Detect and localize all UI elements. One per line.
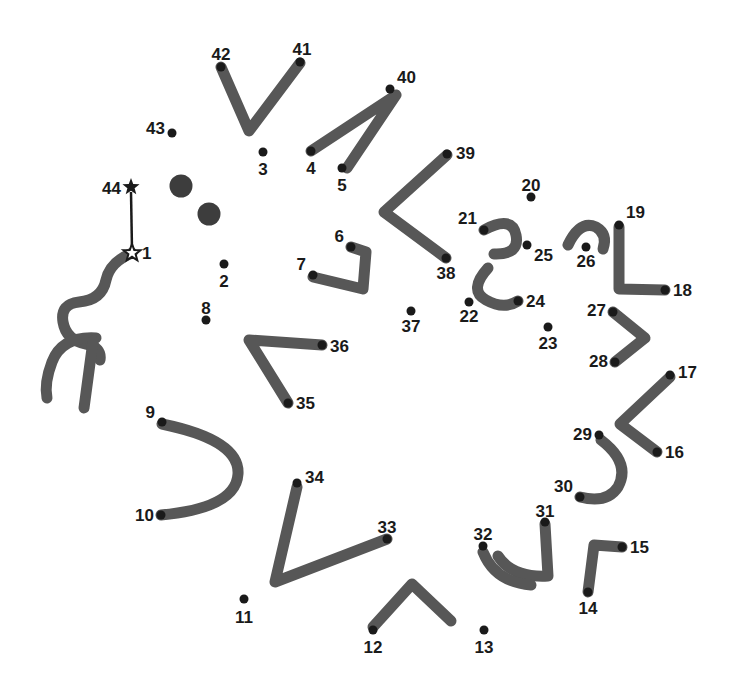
- dot-number-label-16: 16: [665, 443, 684, 462]
- stroke-31-14: [498, 524, 548, 576]
- dot-icon-15: [618, 543, 627, 552]
- dot-marker-24[interactable]: 24: [514, 292, 546, 311]
- dot-number-label-22: 22: [460, 307, 479, 326]
- stroke-42-41: [221, 63, 300, 131]
- dot-icon-26: [582, 243, 591, 252]
- dot-number-label-33: 33: [378, 518, 397, 537]
- dot-marker-18[interactable]: 18: [661, 281, 692, 300]
- dot-marker-10[interactable]: 10: [135, 506, 165, 525]
- stroke-9-10: [161, 424, 238, 515]
- dot-number-label-42: 42: [212, 45, 231, 64]
- dot-icon-24: [514, 297, 523, 306]
- start-end-guide: [131, 192, 132, 250]
- dot-marker-26[interactable]: 26: [577, 243, 596, 272]
- stroke-6-7: [313, 247, 366, 289]
- dot-icon-14: [584, 588, 593, 597]
- dot-number-label-25: 25: [534, 246, 553, 265]
- dot-marker-44[interactable]: 44: [102, 178, 139, 198]
- dot-icon-19: [615, 221, 624, 230]
- dot-icon-22: [465, 298, 474, 307]
- dot-number-label-44: 44: [102, 179, 121, 198]
- stroke-left-fork-b: [84, 341, 93, 408]
- dot-marker-42[interactable]: 42: [212, 45, 231, 72]
- dot-marker-40[interactable]: 40: [386, 68, 416, 94]
- dot-number-label-11: 11: [235, 608, 253, 627]
- stroke-19-18: [619, 227, 665, 290]
- connect-the-dots-canvas: 1234567891011121314151617181920212223242…: [0, 0, 731, 690]
- dot-icon-23: [544, 323, 553, 332]
- dot-marker-19[interactable]: 19: [615, 203, 645, 230]
- dot-number-label-39: 39: [456, 144, 475, 163]
- dot-marker-20[interactable]: 20: [522, 176, 541, 202]
- dot-icon-36: [318, 341, 327, 350]
- dot-marker-6[interactable]: 6: [335, 227, 356, 252]
- dot-marker-5[interactable]: 5: [337, 164, 346, 196]
- dot-marker-32[interactable]: 32: [474, 525, 493, 551]
- dot-icon-2: [220, 260, 229, 269]
- dot-marker-8[interactable]: 8: [201, 299, 210, 325]
- dot-number-label-41: 41: [293, 40, 312, 59]
- dot-number-label-12: 12: [364, 638, 383, 657]
- dot-number-label-32: 32: [474, 525, 493, 544]
- dot-icon-37: [407, 307, 416, 316]
- dot-marker-21[interactable]: 21: [458, 209, 488, 235]
- dot-number-label-3: 3: [258, 160, 267, 179]
- dot-icon-7: [309, 271, 318, 280]
- dot-number-label-34: 34: [305, 468, 324, 487]
- guide-line-group: [131, 192, 132, 250]
- eye-dot-upper: [170, 175, 193, 198]
- dot-marker-22[interactable]: 22: [460, 298, 479, 327]
- dot-icon-16: [653, 448, 662, 457]
- dot-number-label-9: 9: [146, 403, 155, 422]
- dot-icon-38: [442, 254, 451, 263]
- dot-marker-30[interactable]: 30: [554, 477, 584, 502]
- dot-number-label-38: 38: [437, 264, 456, 283]
- dot-marker-14[interactable]: 14: [579, 588, 598, 619]
- stroke-12-13: [373, 584, 451, 627]
- dot-marker-25[interactable]: 25: [523, 241, 553, 266]
- dot-number-label-28: 28: [589, 352, 608, 371]
- dot-number-label-17: 17: [678, 363, 697, 382]
- dot-number-label-1: 1: [142, 244, 151, 263]
- dot-icon-11: [240, 595, 249, 604]
- dot-icon-21: [480, 226, 489, 235]
- dot-number-label-14: 14: [579, 599, 598, 618]
- dot-number-label-21: 21: [458, 209, 477, 228]
- dot-marker-7[interactable]: 7: [297, 255, 318, 280]
- dot-marker-31[interactable]: 31: [536, 502, 555, 527]
- dot-icon-28: [611, 358, 620, 367]
- stroke-29-30: [580, 440, 622, 499]
- dot-marker-43[interactable]: 43: [146, 119, 176, 138]
- big-dots-group: [170, 175, 221, 226]
- dot-marker-2[interactable]: 2: [219, 260, 228, 292]
- dot-icon-30: [576, 493, 585, 502]
- dot-icon-13: [480, 626, 489, 635]
- dot-icon-35: [284, 399, 293, 408]
- stroke-21-25: [484, 224, 517, 254]
- stroke-34-33: [275, 487, 387, 582]
- dot-marker-34[interactable]: 34: [293, 468, 325, 488]
- dot-marker-13[interactable]: 13: [475, 626, 494, 658]
- dot-marker-1[interactable]: 1: [123, 244, 151, 263]
- dot-marker-4[interactable]: 4: [306, 147, 316, 179]
- dot-marker-17[interactable]: 17: [666, 363, 697, 382]
- dot-number-label-2: 2: [219, 272, 228, 291]
- dot-icon-27: [609, 308, 618, 317]
- dot-marker-9[interactable]: 9: [146, 403, 167, 427]
- stroke-27-28: [613, 312, 645, 362]
- dot-icon-12: [369, 626, 378, 635]
- puzzle-drawing: 1234567891011121314151617181920212223242…: [0, 0, 731, 690]
- dot-marker-23[interactable]: 23: [539, 323, 558, 354]
- dot-marker-15[interactable]: 15: [618, 538, 649, 557]
- dot-icon-5: [338, 164, 347, 173]
- dot-icon-4: [307, 147, 316, 156]
- dot-marker-3[interactable]: 3: [258, 148, 267, 180]
- dot-icon-34: [293, 479, 302, 488]
- dot-marker-37[interactable]: 37: [402, 307, 421, 337]
- dot-marker-12[interactable]: 12: [364, 626, 383, 658]
- dot-number-label-18: 18: [673, 281, 692, 300]
- dot-icon-25: [523, 241, 532, 250]
- dot-marker-11[interactable]: 11: [235, 595, 253, 628]
- dot-marker-28[interactable]: 28: [589, 352, 619, 371]
- star-filled-icon-44: [122, 178, 139, 194]
